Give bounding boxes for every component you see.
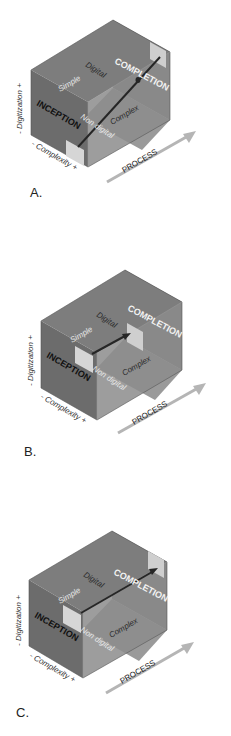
panel-letter-a: A. [30,185,42,200]
process-label: PROCESS [119,658,157,685]
panel-letter-b: B. [24,444,36,459]
process-label: PROCESS [121,147,159,174]
panel-letter-c: C. [16,705,29,720]
process-label: PROCESS [131,399,169,426]
panel-c: Digital Simple INCEPTION COMPLETION Non … [0,510,231,736]
digitization-axis-label: - Digitization + [26,335,35,386]
panel-b: Digital Simple INCEPTION COMPLETION Non … [0,250,231,490]
cube-diagram-a: Digital Simple INCEPTION COMPLETION Non … [0,0,231,240]
digitization-axis-label: - Digitization + [14,595,23,646]
digitization-axis-label: - Digitization + [15,83,24,134]
panel-a: Digital Simple INCEPTION COMPLETION Non … [0,0,231,240]
cube-diagram-c: Digital Simple INCEPTION COMPLETION Non … [0,510,231,736]
